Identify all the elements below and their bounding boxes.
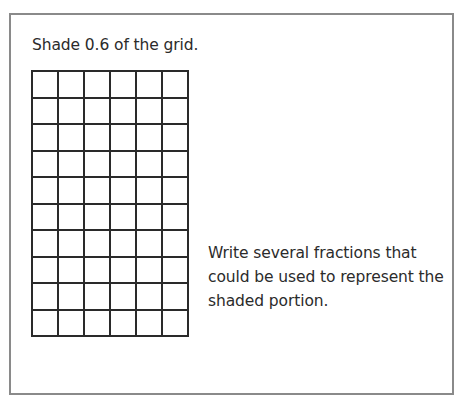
grid-cell[interactable]	[111, 311, 137, 338]
grid-cell[interactable]	[163, 231, 189, 258]
grid-cell[interactable]	[111, 125, 137, 152]
grid-cell[interactable]	[137, 72, 163, 99]
grid-cell[interactable]	[163, 72, 189, 99]
grid-cell[interactable]	[33, 258, 59, 285]
grid-cell[interactable]	[163, 258, 189, 285]
grid-cell[interactable]	[163, 125, 189, 152]
grid-cell[interactable]	[33, 284, 59, 311]
grid-cell[interactable]	[137, 258, 163, 285]
grid-cell[interactable]	[137, 99, 163, 126]
grid-cell[interactable]	[137, 284, 163, 311]
grid-cell[interactable]	[85, 205, 111, 232]
grid-cell[interactable]	[59, 99, 85, 126]
grid-cell[interactable]	[137, 178, 163, 205]
grid-cell[interactable]	[111, 99, 137, 126]
grid-cell[interactable]	[111, 152, 137, 179]
prompt-text: Shade 0.6 of the grid.	[32, 35, 198, 55]
grid-cell[interactable]	[59, 125, 85, 152]
grid-cell[interactable]	[59, 152, 85, 179]
grid-cell[interactable]	[85, 284, 111, 311]
grid-cell[interactable]	[163, 311, 189, 338]
shading-grid[interactable]	[31, 70, 189, 337]
grid-cell[interactable]	[111, 231, 137, 258]
grid-cell[interactable]	[111, 178, 137, 205]
grid-cell[interactable]	[59, 205, 85, 232]
grid-cell[interactable]	[33, 205, 59, 232]
grid-cell[interactable]	[59, 284, 85, 311]
grid-cell[interactable]	[85, 178, 111, 205]
grid-cell[interactable]	[111, 205, 137, 232]
grid-cell[interactable]	[111, 72, 137, 99]
grid-cell[interactable]	[33, 125, 59, 152]
grid-cell[interactable]	[59, 258, 85, 285]
grid-cell[interactable]	[85, 258, 111, 285]
grid-cell[interactable]	[163, 152, 189, 179]
grid-cell[interactable]	[111, 284, 137, 311]
grid-cell[interactable]	[33, 99, 59, 126]
grid-cell[interactable]	[85, 99, 111, 126]
grid-cell[interactable]	[85, 231, 111, 258]
grid-cell[interactable]	[163, 178, 189, 205]
grid-cell[interactable]	[85, 311, 111, 338]
worksheet-box: Shade 0.6 of the grid. Write several fra…	[9, 13, 454, 395]
question-text: Write several fractions that could be us…	[208, 241, 448, 313]
grid-cell[interactable]	[85, 152, 111, 179]
grid-cell[interactable]	[33, 152, 59, 179]
grid-cell[interactable]	[111, 258, 137, 285]
grid-cell[interactable]	[137, 311, 163, 338]
grid-cell[interactable]	[163, 284, 189, 311]
grid-cell[interactable]	[137, 231, 163, 258]
grid-cell[interactable]	[85, 125, 111, 152]
grid-cell[interactable]	[59, 72, 85, 99]
grid-cell[interactable]	[33, 231, 59, 258]
grid-cell[interactable]	[33, 72, 59, 99]
grid-cell[interactable]	[163, 99, 189, 126]
grid-cell[interactable]	[163, 205, 189, 232]
grid-cell[interactable]	[85, 72, 111, 99]
grid-cell[interactable]	[33, 178, 59, 205]
grid-cell[interactable]	[137, 152, 163, 179]
grid-cell[interactable]	[137, 205, 163, 232]
grid-cell[interactable]	[137, 125, 163, 152]
grid-cell[interactable]	[33, 311, 59, 338]
grid-cell[interactable]	[59, 311, 85, 338]
grid-cell[interactable]	[59, 178, 85, 205]
grid-cell[interactable]	[59, 231, 85, 258]
